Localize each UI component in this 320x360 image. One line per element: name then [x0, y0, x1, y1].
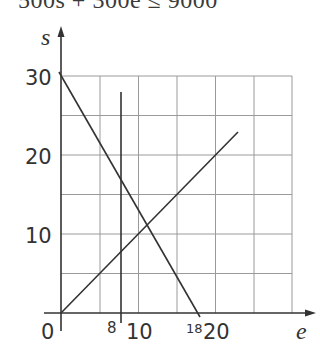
x-tick-8: 8 — [107, 319, 117, 337]
y-tick-10: 10 — [25, 224, 52, 248]
data-lines — [59, 72, 238, 323]
origin-label: 0 — [41, 320, 54, 344]
axes — [44, 26, 316, 331]
x-tick-20: 20 — [203, 320, 230, 344]
x-axis-label: e — [296, 318, 307, 344]
x-tick-18: 18 — [186, 321, 203, 336]
x-axis-arrow-icon — [305, 310, 316, 317]
x-tick-10: 10 — [126, 320, 153, 344]
y-tick-30: 30 — [25, 66, 52, 90]
y-axis-label: s — [41, 24, 50, 50]
graph: 30 20 10 0 8 10 18 20 s e — [0, 0, 320, 360]
y-axis-arrow-icon — [58, 26, 65, 37]
line-s-equals-e — [61, 132, 238, 313]
y-tick-20: 20 — [25, 145, 52, 169]
